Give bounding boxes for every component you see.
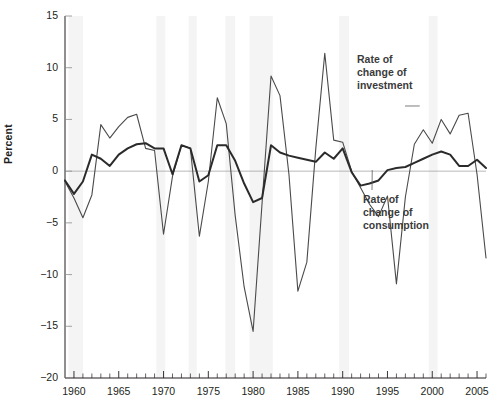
annotation-consumption-line1: Rate of	[363, 193, 429, 206]
y-tick-label: −10	[22, 268, 58, 280]
annotation-investment: Rate of change of investment	[357, 53, 412, 93]
recession-band	[429, 16, 438, 378]
y-axis-title: Percent	[2, 124, 14, 164]
y-tick-label: −15	[22, 319, 58, 331]
recession-band	[250, 16, 273, 378]
y-tick-label: 10	[22, 61, 58, 73]
x-tick-label: 2005	[462, 385, 492, 397]
annotation-consumption-line2: change of	[363, 206, 429, 219]
recession-band	[339, 16, 349, 378]
recession-band	[156, 16, 165, 378]
annotation-consumption-line3: consumption	[363, 219, 429, 232]
x-tick-label: 1995	[372, 385, 402, 397]
y-tick-label: −20	[22, 371, 58, 383]
annotation-consumption: Rate of change of consumption	[363, 193, 429, 233]
y-tick-label: 15	[22, 9, 58, 21]
y-tick-label: 5	[22, 112, 58, 124]
y-tick-label: −5	[22, 216, 58, 228]
x-tick-label: 1980	[238, 385, 268, 397]
annotation-investment-line2: change of	[357, 66, 412, 79]
recession-band	[69, 16, 83, 378]
x-tick-label: 1990	[328, 385, 358, 397]
x-tick-label: 1965	[104, 385, 134, 397]
x-tick-label: 2000	[417, 385, 447, 397]
annotation-investment-line1: Rate of	[357, 53, 412, 66]
y-tick-label: 0	[22, 164, 58, 176]
x-tick-label: 1975	[193, 385, 223, 397]
chart-container: Percent Rate of change of investment Rat…	[0, 0, 500, 418]
x-tick-label: 1960	[59, 385, 89, 397]
x-tick-label: 1970	[149, 385, 179, 397]
annotation-investment-line3: investment	[357, 79, 412, 92]
annotation-leaders	[372, 106, 420, 190]
x-tick-label: 1985	[283, 385, 313, 397]
